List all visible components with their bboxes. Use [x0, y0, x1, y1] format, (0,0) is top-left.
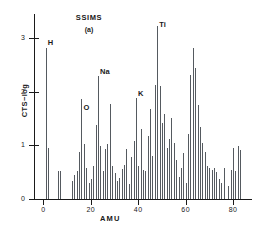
spectrum-peak [96, 125, 97, 199]
spectrum-peak [100, 146, 101, 199]
y-axis-tick-label: 3 [11, 34, 25, 41]
spectrum-peak [212, 170, 213, 199]
ssims-mass-spectrum-figure: SSIMS (a) CTS−log AMU 0123 020406080 HON… [0, 0, 261, 226]
x-axis-tick [43, 200, 44, 205]
spectrum-peak [105, 149, 106, 199]
spectrum-peak [205, 152, 206, 199]
spectrum-peak [91, 179, 92, 199]
spectrum-peak [240, 150, 241, 199]
spectrum-peak [145, 171, 146, 199]
spectrum-peak [74, 175, 75, 199]
spectrum-peak [198, 105, 199, 199]
spectrum-peak [171, 118, 172, 200]
x-axis-tick-label: 20 [80, 206, 102, 214]
spectrum-peak [228, 186, 229, 199]
spectrum-peak [207, 166, 208, 199]
spectrum-peak [119, 178, 120, 199]
peak-label-k: K [138, 89, 143, 98]
spectrum-peak [115, 173, 116, 199]
spectrum-peak [131, 157, 132, 199]
peak-label-ti: Ti [159, 20, 166, 29]
y-axis-tick-label: 2 [11, 88, 25, 95]
spectrum-peak [122, 169, 123, 199]
spectrum-peak [176, 160, 177, 199]
spectrum-peak [190, 75, 191, 199]
spectrum-peak [98, 76, 99, 199]
spectrum-peak [126, 149, 127, 199]
spectrum-peak [157, 26, 158, 199]
spectrum-peak [77, 171, 78, 199]
spectrum-peak [181, 168, 182, 199]
spectrum-peak [221, 183, 222, 199]
spectrum-peak [152, 156, 153, 199]
spectrum-peak [235, 171, 236, 199]
spectrum-peak [84, 144, 85, 199]
spectrum-peaks [34, 14, 252, 199]
spectrum-peak [72, 181, 73, 199]
spectrum-peak [169, 139, 170, 199]
spectrum-peak [150, 109, 151, 199]
spectrum-peak [195, 68, 196, 199]
spectrum-peak [160, 86, 161, 199]
spectrum-peak [117, 181, 118, 199]
x-axis-tick-label: 0 [32, 206, 54, 214]
spectrum-peak [231, 170, 232, 199]
spectrum-peak [233, 148, 234, 199]
spectrum-peak [155, 85, 156, 199]
spectrum-peak [164, 114, 165, 199]
y-axis-title: CTS−log [20, 71, 29, 131]
spectrum-peak [112, 166, 113, 199]
spectrum-peak [89, 183, 90, 199]
spectrum-peak [60, 171, 61, 199]
spectrum-peak [186, 183, 187, 199]
x-axis-tick [233, 200, 234, 205]
peak-label-o: O [83, 103, 89, 112]
peak-label-na: Na [100, 67, 110, 76]
x-axis-tick-label: 80 [222, 206, 244, 214]
spectrum-peak [183, 153, 184, 199]
spectrum-peak [46, 48, 47, 199]
x-axis-tick [138, 200, 139, 205]
spectrum-peak [219, 179, 220, 199]
spectrum-peak [107, 144, 108, 199]
x-axis-tick [186, 200, 187, 205]
spectrum-peak [86, 168, 87, 199]
spectrum-peak [58, 171, 59, 199]
spectrum-peak [179, 177, 180, 199]
y-axis-tick-label: 0 [11, 195, 25, 202]
spectrum-peak [93, 166, 94, 199]
spectrum-peak [193, 48, 194, 199]
spectrum-peak [174, 143, 175, 199]
x-axis-tick-label: 60 [175, 206, 197, 214]
x-axis-tick-label: 40 [127, 206, 149, 214]
spectrum-peak [202, 143, 203, 199]
x-axis-tick [91, 200, 92, 205]
spectrum-peak [167, 148, 168, 199]
spectrum-peak [48, 148, 49, 199]
spectrum-peak [238, 146, 239, 199]
spectrum-peak [138, 166, 139, 199]
spectrum-peak [141, 129, 142, 199]
spectrum-peak [110, 104, 111, 199]
spectrum-peak [136, 98, 137, 199]
spectrum-peak [216, 172, 217, 199]
plot-area [34, 14, 252, 200]
spectrum-peak [103, 171, 104, 199]
spectrum-peak [200, 127, 201, 199]
spectrum-peak [209, 168, 210, 199]
peak-label-h: H [48, 38, 53, 47]
spectrum-peak [79, 152, 80, 199]
spectrum-peak [162, 123, 163, 199]
x-axis-title: AMU [100, 214, 121, 223]
spectrum-peak [134, 141, 135, 199]
spectrum-peak [214, 168, 215, 199]
spectrum-peak [148, 136, 149, 199]
y-axis-tick-label: 1 [11, 141, 25, 148]
spectrum-peak [81, 99, 82, 199]
spectrum-peak [124, 165, 125, 199]
spectrum-peak [224, 168, 225, 199]
spectrum-peak [143, 170, 144, 199]
spectrum-peak [188, 134, 189, 199]
spectrum-peak [129, 184, 130, 199]
